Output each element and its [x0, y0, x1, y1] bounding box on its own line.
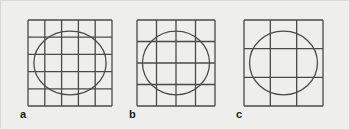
panel-label-a: a — [20, 109, 26, 120]
grid-lines-b — [137, 20, 215, 106]
ellipse-outline-c — [250, 31, 318, 95]
grid-lines-a — [28, 20, 112, 106]
panel-a-drawing — [28, 20, 112, 106]
panel-a-grid-ellipse — [28, 20, 112, 106]
panel-c-grid-ellipse — [244, 20, 323, 106]
figure-container: a b c — [0, 0, 350, 130]
grid-lines-c — [244, 20, 323, 106]
panel-label-c: c — [236, 109, 242, 120]
panel-b-drawing — [137, 20, 215, 106]
panel-b-grid-ellipse — [137, 20, 215, 106]
panel-c-drawing — [244, 20, 323, 106]
panel-label-b: b — [129, 109, 136, 120]
